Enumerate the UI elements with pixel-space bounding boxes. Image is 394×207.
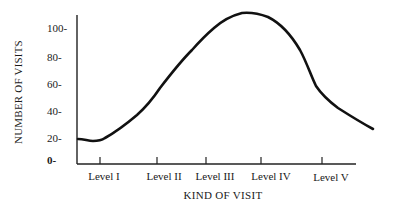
x-tick-level-4: Level IV [251, 170, 290, 182]
y-tick-100: 100- [47, 22, 68, 34]
x-tick-level-5: Level V [313, 171, 349, 183]
y-tick-0: 0- [47, 154, 57, 166]
x-tick-labels: Level I Level II Level III Level IV Leve… [88, 170, 349, 183]
x-tick-level-2: Level II [146, 170, 181, 182]
y-tick-20: 20- [47, 132, 62, 144]
x-tick-level-3: Level III [196, 170, 235, 182]
x-axis-label: KIND OF VISIT [184, 189, 263, 201]
x-tick-level-1: Level I [88, 170, 120, 182]
x-ticks [100, 157, 322, 164]
y-tick-80: 80- [47, 51, 62, 63]
y-tick-40: 40- [47, 105, 62, 117]
visits-curve [78, 13, 373, 141]
y-axis-label: NUMBER OF VISITS [12, 40, 24, 144]
y-tick-60: 60- [47, 78, 62, 90]
line-chart: NUMBER OF VISITS 100- 80- 60- 40- 20- 0-… [0, 0, 394, 207]
y-tick-labels: 100- 80- 60- 40- 20- 0- [47, 22, 68, 166]
